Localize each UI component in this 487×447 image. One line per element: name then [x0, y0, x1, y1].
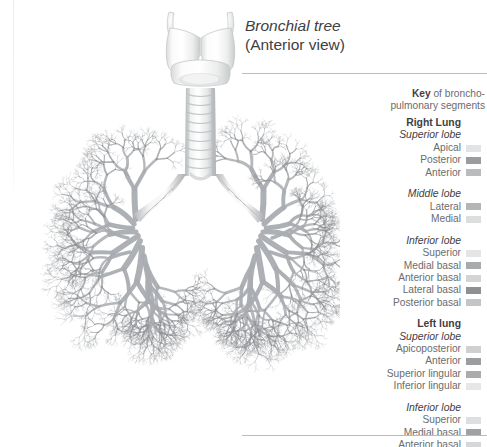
legend-group-subheading: Inferior lobe [239, 235, 485, 248]
legend-item-label: Inferior lingular [394, 380, 461, 392]
legend-item[interactable]: Posterior [239, 154, 485, 166]
legend-item-label: Superior lingular [387, 368, 461, 380]
legend-color-swatch [466, 299, 481, 306]
legend-item-label: Posterior basal [393, 297, 461, 309]
legend-panel: Bronchial tree (Anterior view) Key of br… [237, 0, 487, 447]
legend-color-swatch [466, 442, 481, 447]
legend-color-swatch [466, 287, 481, 294]
legend-item-label: Anterior basal [398, 439, 461, 447]
legend-item[interactable]: Anterior [239, 355, 485, 367]
legend-item-label: Apicoposterior [396, 343, 461, 355]
legend-item[interactable]: Medial [239, 213, 485, 225]
key-caption-line-2: pulmonary segments [239, 100, 485, 112]
legend-item-label: Medial [431, 213, 461, 225]
key-caption-rest: of broncho- [431, 88, 485, 99]
legend-color-swatch [466, 169, 481, 176]
legend-color-swatch [466, 358, 481, 365]
legend-item[interactable]: Medial basal [239, 427, 485, 439]
page-title: Bronchial tree (Anterior view) [237, 16, 472, 54]
legend-item-label: Superior [422, 247, 461, 259]
legend-group-subheading: Superior lobe [239, 331, 485, 344]
legend-item[interactable]: Apicoposterior [239, 343, 485, 355]
key-label: Key [412, 88, 431, 99]
legend-group-subheading: Middle lobe [239, 188, 485, 201]
legend-color-swatch [466, 346, 481, 353]
legend-color-swatch [466, 250, 481, 257]
legend-item-label: Anterior [425, 167, 461, 179]
bottom-divider [242, 435, 487, 436]
legend-item-label: Posterior [420, 154, 461, 166]
legend-item-label: Anterior basal [398, 272, 461, 284]
legend-color-swatch [466, 275, 481, 282]
legend-color-swatch [466, 383, 481, 390]
legend-color-swatch [466, 145, 481, 152]
legend-item[interactable]: Anterior basal [239, 439, 485, 447]
illustration-page: Bronchial tree (Anterior view) Key of br… [0, 0, 487, 447]
legend-list: Right LungSuperior lobeApicalPosteriorAn… [239, 117, 485, 447]
legend-item[interactable]: Lateral basal [239, 284, 485, 296]
legend-color-swatch [466, 262, 481, 269]
key-caption: Key of broncho- pulmonary segments [239, 88, 485, 113]
key-caption-line-1: Key of broncho- [239, 88, 485, 100]
legend-color-swatch [466, 216, 481, 223]
legend-item[interactable]: Lateral [239, 201, 485, 213]
legend-group-right-middle-lobe: Middle lobeLateralMedial [239, 188, 485, 225]
legend-color-swatch [466, 371, 481, 378]
larynx [166, 12, 234, 87]
legend-group-right-lung: Right LungSuperior lobeApicalPosteriorAn… [239, 117, 485, 179]
legend-item[interactable]: Medial basal [239, 260, 485, 272]
top-divider [242, 73, 487, 74]
legend-item[interactable]: Inferior lingular [239, 380, 485, 392]
title-line-2: (Anterior view) [245, 35, 472, 54]
legend-item-label: Anterior [425, 355, 461, 367]
trachea [185, 88, 216, 176]
legend-item[interactable]: Posterior basal [239, 297, 485, 309]
legend-item-label: Apical [433, 142, 461, 154]
legend-item-label: Superior [422, 414, 461, 426]
legend-group-right-inferior-lobe: Inferior lobeSuperiorMedial basalAnterio… [239, 235, 485, 310]
legend-group-heading: Right Lung [239, 117, 485, 129]
legend-item-label: Medial basal [404, 427, 461, 439]
legend-item[interactable]: Superior lingular [239, 368, 485, 380]
legend-group-left-lung: Left lungSuperior lobeApicoposteriorAnte… [239, 318, 485, 393]
legend-color-swatch [466, 417, 481, 424]
legend-item-label: Lateral [430, 201, 461, 213]
legend-color-swatch [466, 203, 481, 210]
legend-item[interactable]: Apical [239, 142, 485, 154]
legend-group-subheading: Superior lobe [239, 129, 485, 142]
title-line-1: Bronchial tree [245, 16, 472, 35]
legend-item-label: Lateral basal [403, 284, 461, 296]
legend-item[interactable]: Anterior [239, 167, 485, 179]
legend-item-label: Medial basal [404, 260, 461, 272]
legend-group-heading: Left lung [239, 318, 485, 330]
legend-item[interactable]: Superior [239, 414, 485, 426]
legend-item[interactable]: Anterior basal [239, 272, 485, 284]
legend-group-subheading: Inferior lobe [239, 402, 485, 415]
legend-color-swatch [466, 157, 481, 164]
legend-group-left-inferior-lobe: Inferior lobeSuperiorMedial basalAnterio… [239, 402, 485, 447]
legend-item[interactable]: Superior [239, 247, 485, 259]
